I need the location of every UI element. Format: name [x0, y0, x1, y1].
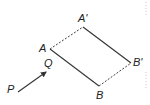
label-A-prime: A' [77, 12, 88, 24]
translation-diagram: A' A B' B Q P [0, 0, 150, 105]
label-B-prime: B' [133, 56, 143, 68]
segment-AA-prime-dashed [50, 27, 83, 49]
segment-BB-prime-dashed [99, 63, 131, 86]
segment-A-prime-B-prime [83, 27, 131, 63]
label-Q: Q [44, 57, 53, 69]
label-P: P [7, 83, 15, 95]
label-A: A [38, 42, 46, 54]
segment-AB [50, 49, 99, 86]
label-B: B [96, 89, 103, 101]
vector-PQ-arrow [18, 72, 46, 92]
